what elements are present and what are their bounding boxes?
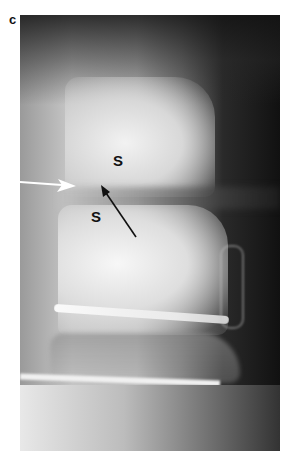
- black-arrow-icon: [101, 185, 136, 237]
- white-arrow-icon: [20, 179, 76, 192]
